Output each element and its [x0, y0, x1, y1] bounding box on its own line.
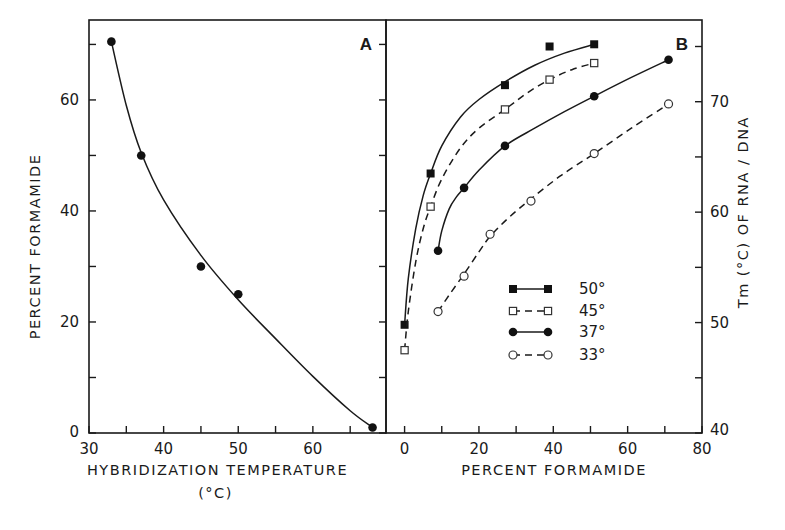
- data-point: [664, 55, 673, 64]
- legend-marker: [509, 307, 516, 314]
- series-line: [111, 42, 372, 428]
- x-tick-label: 0: [400, 440, 410, 458]
- panel-b: 02040608040506070PERCENT FORMAMIDETm (°C…: [386, 20, 751, 478]
- data-point: [590, 40, 598, 48]
- data-point: [434, 246, 443, 255]
- x-axis-title: PERCENT FORMAMIDE: [461, 462, 647, 478]
- data-point: [527, 197, 535, 205]
- data-point: [460, 184, 469, 193]
- data-point: [590, 92, 599, 101]
- y-tick-label: 20: [60, 313, 79, 331]
- y-tick-label: 70: [710, 93, 729, 111]
- legend-marker: [544, 351, 552, 359]
- x-axis-title: HYBRIDIZATION TEMPERATURE: [87, 462, 348, 478]
- y-axis-title: PERCENT FORMAMIDE: [27, 154, 43, 340]
- x-tick-label: 40: [544, 440, 563, 458]
- y-tick-label: 60: [710, 203, 729, 221]
- legend-label: 50°: [579, 280, 606, 298]
- y-tick-label: 40: [710, 421, 729, 439]
- panel-label: A: [360, 35, 372, 54]
- data-point: [234, 290, 243, 299]
- series-line: [405, 44, 595, 324]
- legend-marker: [544, 285, 552, 293]
- series-line: [438, 60, 668, 251]
- legend-marker: [509, 285, 517, 293]
- data-point: [401, 347, 408, 354]
- data-point: [591, 59, 598, 66]
- data-point: [486, 230, 494, 238]
- data-point: [427, 203, 434, 210]
- plot-frame: [89, 20, 386, 433]
- panel-a: 304050600204060HYBRIDIZATION TEMPERATURE…: [27, 20, 386, 501]
- legend-marker: [509, 351, 517, 359]
- data-point: [501, 106, 508, 113]
- data-point: [137, 151, 146, 160]
- x-tick-label: 30: [79, 440, 98, 458]
- data-point: [501, 81, 509, 89]
- data-point: [546, 43, 554, 51]
- legend-marker: [544, 307, 551, 314]
- legend-label: 45°: [579, 302, 606, 320]
- data-point: [665, 100, 673, 108]
- y-tick-label: 50: [710, 314, 729, 332]
- data-point: [434, 308, 442, 316]
- legend-marker: [544, 328, 553, 337]
- y-tick-label: 0: [69, 423, 79, 441]
- plot-frame: [386, 20, 702, 433]
- x-tick-label: 50: [229, 440, 248, 458]
- x-tick-label: 60: [618, 440, 637, 458]
- legend-marker: [509, 328, 518, 337]
- y-tick-label: 60: [60, 91, 79, 109]
- x-tick-label: 20: [469, 440, 488, 458]
- data-point: [107, 37, 116, 46]
- data-point: [501, 142, 510, 151]
- data-point: [460, 272, 468, 280]
- data-point: [546, 76, 553, 83]
- data-point: [197, 262, 206, 271]
- panel-label: B: [676, 35, 688, 54]
- x-tick-label: 80: [692, 440, 711, 458]
- chart-figure: 304050600204060HYBRIDIZATION TEMPERATURE…: [0, 0, 785, 530]
- legend-label: 33°: [579, 346, 606, 364]
- data-point: [368, 423, 377, 432]
- legend-label: 37°: [579, 323, 606, 341]
- x-axis-unit: (°C): [198, 485, 233, 501]
- series-line: [438, 104, 668, 312]
- y-tick-label: 40: [60, 202, 79, 220]
- x-tick-label: 40: [154, 440, 173, 458]
- data-point: [590, 150, 598, 158]
- data-point: [427, 169, 435, 177]
- x-tick-label: 60: [303, 440, 322, 458]
- y-axis-title: Tm (°C) OF RNA / DNA: [735, 116, 751, 309]
